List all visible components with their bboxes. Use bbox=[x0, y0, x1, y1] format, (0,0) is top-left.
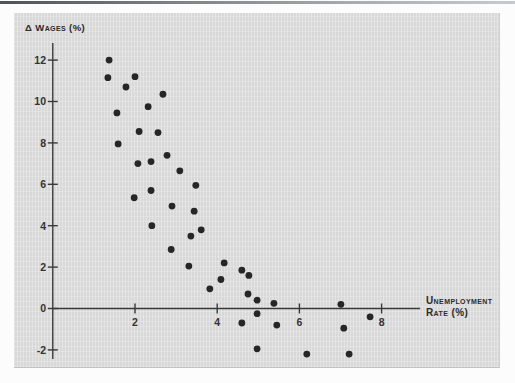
data-point bbox=[238, 320, 245, 327]
data-point bbox=[168, 246, 175, 253]
y-tick-label: 6 bbox=[40, 178, 46, 190]
data-point bbox=[134, 160, 141, 167]
figure: 121086420-22468 Δ Wages (%) Unemployment… bbox=[0, 0, 515, 383]
x-tick-label: 2 bbox=[132, 316, 138, 328]
data-point bbox=[160, 91, 167, 98]
data-point bbox=[254, 310, 261, 317]
data-point bbox=[238, 267, 245, 274]
data-point bbox=[131, 194, 138, 201]
data-point bbox=[206, 285, 213, 292]
x-axis-label: Unemployment Rate (%) bbox=[426, 295, 492, 319]
x-tick-label: 6 bbox=[296, 316, 302, 328]
x-tick-label: 4 bbox=[214, 316, 220, 328]
x-axis-label-line1: Unemployment bbox=[426, 295, 492, 307]
y-tick-label: 0 bbox=[40, 302, 46, 314]
y-tick-label: 10 bbox=[34, 95, 46, 107]
x-axis-label-line2: Rate (%) bbox=[426, 307, 492, 319]
data-point bbox=[148, 158, 155, 165]
data-point bbox=[198, 226, 205, 233]
data-point bbox=[114, 109, 121, 116]
y-tick-label: 12 bbox=[34, 54, 46, 66]
data-point bbox=[176, 167, 183, 174]
data-point bbox=[273, 322, 280, 329]
data-point bbox=[155, 129, 162, 136]
y-tick-label: -2 bbox=[37, 344, 46, 356]
data-point bbox=[148, 187, 155, 194]
data-point bbox=[187, 233, 194, 240]
y-tick-label: 2 bbox=[40, 261, 46, 273]
data-point bbox=[164, 152, 171, 159]
data-point bbox=[245, 272, 252, 279]
data-point bbox=[254, 345, 261, 352]
data-point bbox=[106, 57, 113, 64]
data-point bbox=[115, 141, 122, 148]
y-axis-label: Δ Wages (%) bbox=[25, 22, 85, 34]
data-point bbox=[271, 300, 278, 307]
x-tick-label: 8 bbox=[379, 316, 385, 328]
data-point bbox=[340, 325, 347, 332]
data-point bbox=[123, 84, 130, 91]
data-point bbox=[145, 103, 152, 110]
scatter-plot: 121086420-22468 bbox=[0, 0, 515, 383]
data-point bbox=[346, 351, 353, 358]
data-point bbox=[148, 222, 155, 229]
data-point bbox=[104, 74, 111, 81]
data-point bbox=[254, 297, 261, 304]
y-tick-label: 8 bbox=[40, 137, 46, 149]
data-point bbox=[191, 208, 198, 215]
data-point bbox=[221, 260, 228, 267]
data-point bbox=[169, 203, 176, 210]
data-point bbox=[185, 263, 192, 270]
data-point bbox=[367, 313, 374, 320]
data-point bbox=[245, 291, 252, 298]
data-point bbox=[303, 351, 310, 358]
data-point bbox=[338, 301, 345, 308]
data-point bbox=[132, 73, 139, 80]
y-tick-label: 4 bbox=[40, 220, 46, 232]
data-point bbox=[136, 128, 143, 135]
data-point bbox=[217, 276, 224, 283]
data-point bbox=[192, 182, 199, 189]
